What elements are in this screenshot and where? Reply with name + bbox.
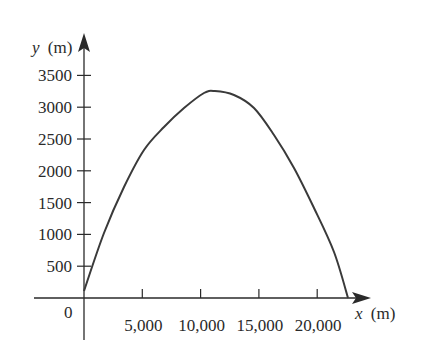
origin-label: 0 <box>64 303 73 322</box>
x-tick-label: 10,000 <box>178 316 225 335</box>
x-tick-label: 5,000 <box>124 316 162 335</box>
y-tick-label: 1500 <box>38 194 72 213</box>
y-tick-label: 2000 <box>38 162 72 181</box>
x-ticks: 5,00010,00015,00020,000 <box>124 289 341 335</box>
x-tick-label: 15,000 <box>237 316 284 335</box>
x-tick-label: 20,000 <box>295 316 342 335</box>
y-axis-label: y (m) <box>30 38 72 57</box>
axes <box>34 33 371 340</box>
y-tick-label: 2500 <box>38 130 72 149</box>
trajectory-chart: 500100015002000250030003500 5,00010,0001… <box>0 0 423 354</box>
y-tick-label: 3000 <box>38 98 72 117</box>
trajectory-curve <box>84 91 348 298</box>
y-tick-label: 1000 <box>38 225 72 244</box>
x-axis-label: x (m) <box>354 304 395 323</box>
y-tick-label: 3500 <box>38 66 72 85</box>
y-ticks: 500100015002000250030003500 <box>38 66 91 276</box>
y-tick-label: 500 <box>47 257 73 276</box>
